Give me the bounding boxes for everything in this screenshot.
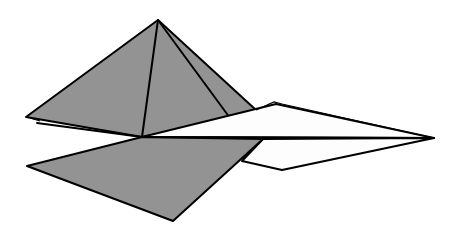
center-crease <box>142 137 434 138</box>
origami-figure <box>0 0 463 237</box>
lower-white-flap <box>242 138 434 170</box>
lower-gray-flap <box>27 137 263 221</box>
